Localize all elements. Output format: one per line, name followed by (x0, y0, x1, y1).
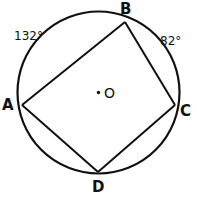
geometry-figure: A B C D O 132° 82° (0, 0, 197, 198)
chord-da (22, 105, 98, 172)
arc-measure-bc: 82° (160, 35, 181, 47)
center-dot-marker (97, 91, 100, 94)
vertex-label-d: D (92, 180, 104, 195)
vertex-label-a: A (2, 98, 14, 113)
arc-measure-ab: 132° (14, 30, 43, 42)
center-label-o: O (104, 86, 115, 100)
vertex-label-b: B (120, 2, 131, 17)
vertex-label-c: C (180, 104, 191, 119)
chord-cd (98, 105, 175, 172)
